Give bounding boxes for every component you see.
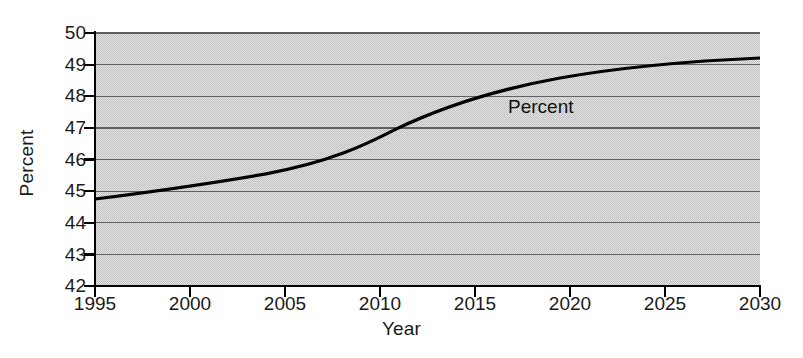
- x-tick-label: 2005: [245, 292, 325, 316]
- series-annotation-label: Percent: [508, 96, 573, 118]
- x-axis-tick-labels: 1995 2000 2005 2010 2015 2020 2025 2030: [0, 0, 803, 358]
- chart-figure: 50 49 48 47 46 45 44 43 42 1995 2000 200…: [0, 0, 803, 358]
- x-tick-label: 2000: [150, 292, 230, 316]
- x-tick-label: 2010: [340, 292, 420, 316]
- x-tick-label: 2030: [720, 292, 800, 316]
- x-tick-label: 2015: [435, 292, 515, 316]
- y-axis-title: Percent: [16, 118, 38, 208]
- x-tick-label: 2025: [625, 292, 705, 316]
- x-axis-title: Year: [0, 318, 803, 340]
- x-tick-label: 2020: [530, 292, 610, 316]
- x-tick-label: 1995: [55, 292, 135, 316]
